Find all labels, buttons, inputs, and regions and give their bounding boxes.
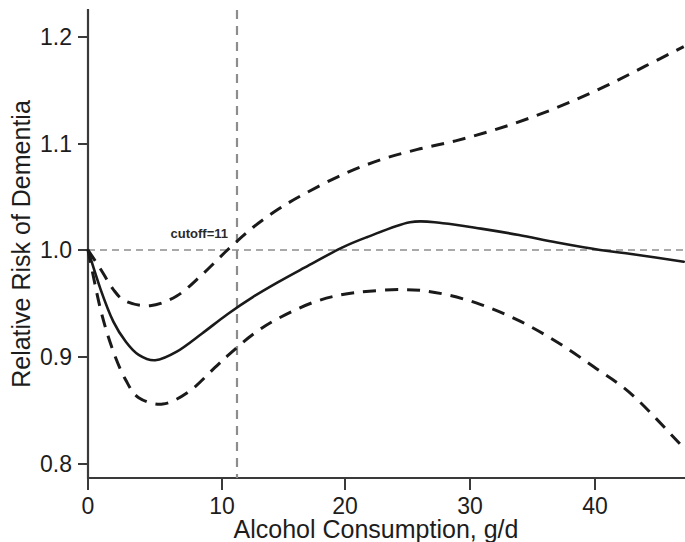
lower-confidence-limit-curve — [88, 250, 684, 448]
relative-risk-dose-response-chart: 1.2 1.1 1.0 0.9 0.8 0 10 20 30 40 Alcoho… — [0, 0, 685, 542]
x-axis-title: Alcohol Consumption, g/d — [234, 515, 519, 542]
x-axis-ticks — [88, 478, 595, 490]
upper-confidence-limit-curve — [88, 47, 684, 306]
x-tick-label: 0 — [82, 493, 95, 519]
x-tick-label: 40 — [582, 493, 608, 519]
y-tick-label: 1.0 — [40, 237, 72, 263]
cutoff-annotation-label: cutoff=11 — [171, 226, 228, 241]
y-axis-title: Relative Risk of Dementia — [7, 100, 35, 388]
y-tick-label: 0.8 — [40, 451, 72, 477]
y-tick-label: 0.9 — [40, 344, 72, 370]
plot-axes-frame — [88, 10, 685, 478]
y-axis-ticks — [78, 37, 88, 464]
y-tick-label: 1.1 — [40, 131, 72, 157]
y-tick-label: 1.2 — [40, 24, 72, 50]
y-axis-tick-labels: 1.2 1.1 1.0 0.9 0.8 — [40, 24, 72, 477]
x-tick-label: 10 — [209, 493, 235, 519]
